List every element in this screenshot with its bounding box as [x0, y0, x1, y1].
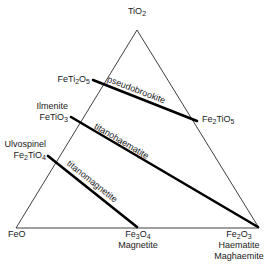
ilmenite-formula: FeTiO3 [0, 112, 68, 123]
magnetite-formula: Fe3O4 [103, 229, 173, 240]
triangle-outline [16, 30, 259, 228]
magnetite-mineral-name: Magnetite [103, 240, 173, 251]
edge-label-magnetite: Fe3O4 Magnetite [103, 229, 173, 251]
vertex-label-tio2: TiO2 [113, 6, 161, 17]
vertex-label-fe2o3: Fe2O3 Haematite Maghaemite [204, 229, 274, 262]
ulvospinel-formula: Fe2TiO4 [0, 150, 46, 161]
edge-label-fe2tio5: Fe2TiO5 [202, 114, 235, 125]
vertex-label-feo: FeO [8, 229, 26, 240]
fe2o3-formula: Fe2O3 [204, 229, 274, 240]
edge-label-feti2o5: FeTi2O5 [18, 74, 90, 85]
fe2o3-mineral-maghaemite: Maghaemite [204, 251, 274, 262]
fe2o3-mineral-haematite: Haematite [204, 240, 274, 251]
tieline-titanomagnetite [48, 156, 137, 227]
ulvospinel-mineral-name: Ulvospinel [0, 139, 46, 150]
edge-label-ulvospinel: Ulvospinel Fe2TiO4 [0, 139, 46, 161]
ilmenite-mineral-name: Ilmenite [0, 101, 68, 112]
edge-label-ilmenite: Ilmenite FeTiO3 [0, 101, 68, 123]
tieline-pseudobrookite [93, 80, 197, 121]
ternary-phase-diagram: TiO2 FeO Fe2O3 Haematite Maghaemite FeTi… [0, 0, 275, 269]
